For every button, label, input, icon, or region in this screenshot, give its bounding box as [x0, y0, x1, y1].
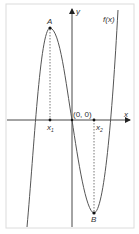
- label-b: B: [91, 215, 97, 224]
- point-x2: [93, 119, 96, 122]
- point-a: [48, 26, 51, 29]
- point-x1: [49, 119, 52, 122]
- label-x-axis: x: [123, 110, 129, 119]
- cubic-function-diagram: A B f(x) y x (0, 0) x1 x2: [0, 0, 139, 234]
- label-a: A: [46, 17, 52, 26]
- label-x1: x1: [46, 123, 54, 133]
- label-y-axis: y: [75, 7, 81, 16]
- label-origin: (0, 0): [73, 110, 92, 119]
- diagram-frame: [6, 4, 134, 228]
- label-fx: f(x): [103, 15, 115, 24]
- label-x2: x2: [95, 123, 103, 133]
- point-origin: [71, 119, 73, 121]
